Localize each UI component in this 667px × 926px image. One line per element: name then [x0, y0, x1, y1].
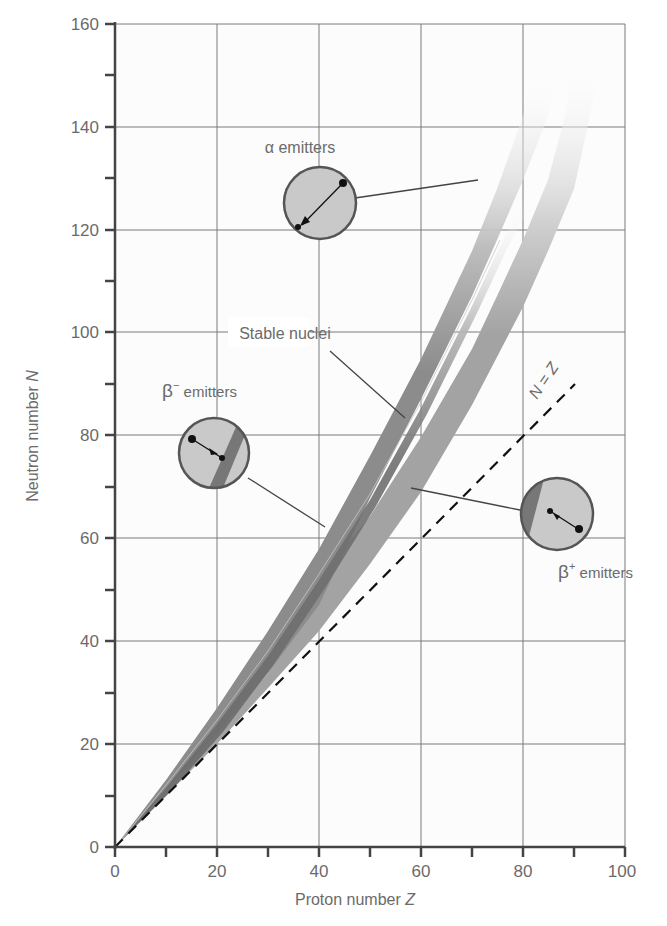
- svg-text:40: 40: [310, 862, 329, 881]
- svg-text:40: 40: [80, 632, 99, 651]
- x-ticks: [115, 847, 625, 857]
- alpha-inset-circle: [284, 167, 356, 239]
- svg-text:Stable nuclei: Stable nuclei: [239, 325, 331, 342]
- x-axis-title: Proton number Z: [295, 891, 416, 908]
- svg-text:80: 80: [80, 426, 99, 445]
- y-ticks: [105, 24, 115, 847]
- svg-text:80: 80: [514, 862, 533, 881]
- svg-text:100: 100: [71, 323, 99, 342]
- y-tick-labels: 0 20 40 60 80 100 120 140 160: [71, 15, 99, 857]
- svg-text:20: 20: [208, 862, 227, 881]
- svg-text:60: 60: [412, 862, 431, 881]
- svg-text:60: 60: [80, 529, 99, 548]
- x-tick-labels: 0 20 40 60 80 100: [110, 862, 636, 881]
- svg-text:0: 0: [110, 862, 119, 881]
- svg-text:100: 100: [608, 862, 636, 881]
- svg-text:140: 140: [71, 118, 99, 137]
- svg-text:160: 160: [71, 15, 99, 34]
- y-axis-title: Neutron number N: [24, 370, 41, 502]
- svg-text:α emitters: α emitters: [265, 139, 336, 156]
- nuclide-stability-chart: N = Z 0 20 40 60 80 100 120 140 160: [0, 0, 667, 926]
- svg-text:0: 0: [90, 838, 99, 857]
- svg-text:120: 120: [71, 221, 99, 240]
- svg-text:20: 20: [80, 735, 99, 754]
